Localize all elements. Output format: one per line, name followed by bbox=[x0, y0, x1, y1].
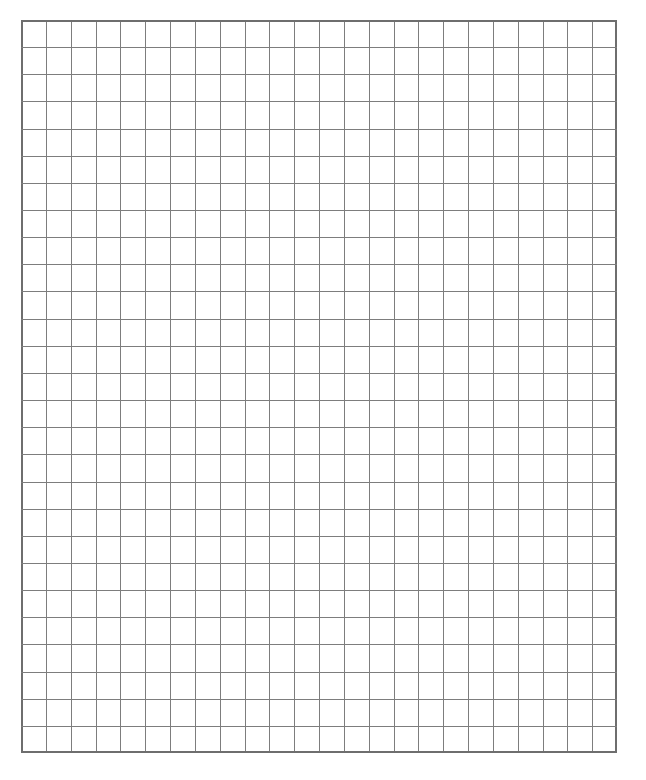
graph-paper-sheet bbox=[21, 20, 617, 753]
grid-canvas bbox=[21, 20, 617, 753]
page-root bbox=[0, 0, 646, 780]
